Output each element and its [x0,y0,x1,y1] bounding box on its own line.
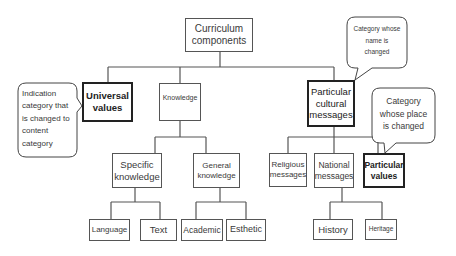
node-label: Esthetic [230,224,262,235]
callout-line: name is [347,35,407,47]
callout-left-text: Indication category that is changed to c… [22,88,78,150]
node-label: Language [92,225,128,235]
node-curriculum-components: Curriculum components [185,18,253,52]
node-general-knowledge: General knowledge [193,153,240,188]
callout-line: Category whose [347,23,407,35]
callout-line: whose place [372,108,435,121]
node-label: knowledge [197,171,235,181]
node-label: Heritage [369,225,394,233]
callout-line: Category [372,95,435,108]
node-particular-values: Particular values [363,153,405,188]
callout-line: is changed to [22,113,78,125]
callout-place-text: Category whose place is changed [372,95,435,133]
node-religious-messages: Religious messages [269,153,307,187]
node-label: Curriculum [192,23,246,36]
node-label: Universal [86,90,129,102]
node-specific-knowledge: Specific knowledge [112,153,162,188]
callout-line: changed [347,46,407,58]
node-label: knowledge [114,171,159,183]
node-label: Religious [270,160,306,170]
node-label: Academic [183,225,220,236]
node-esthetic: Esthetic [226,219,266,241]
node-history: History [313,219,353,240]
callout-line: is changed [372,120,435,133]
callout-line: category [22,138,78,150]
node-knowledge: Knowledge [159,83,201,121]
node-label: messages [309,109,352,121]
node-language: Language [89,219,130,241]
node-label: components [192,35,246,48]
node-label: Particular [309,86,352,98]
node-label: Text [150,224,167,236]
node-text: Text [140,219,177,241]
node-label: History [318,224,348,236]
node-label: Specific [114,159,159,171]
node-label: values [86,102,129,114]
callout-line: content [22,125,78,137]
node-academic: Academic [181,219,223,241]
node-label: messages [270,170,306,180]
callout-name-text: Category whose name is changed [347,23,407,58]
node-label: General [197,161,235,171]
node-particular-cultural-messages: Particular cultural messages [307,80,355,127]
node-label: messages [315,171,354,182]
callout-line: category that [22,100,78,112]
node-national-messages: National messages [314,153,354,188]
node-label: National [315,160,354,171]
node-heritage: Heritage [365,219,397,240]
node-universal-values: Universal values [82,82,133,122]
node-label: Particular [364,160,403,171]
node-label: cultural [309,98,352,110]
node-label: values [364,171,403,182]
callout-line: Indication [22,88,78,100]
node-label: Knowledge [163,94,198,103]
